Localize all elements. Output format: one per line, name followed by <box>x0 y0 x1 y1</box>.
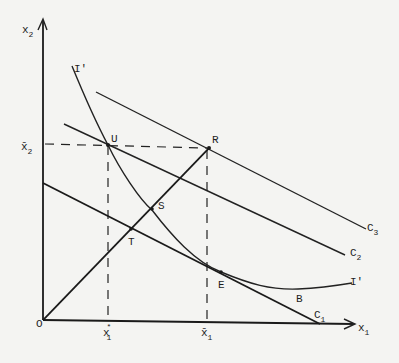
isocost-line-c3 <box>96 92 366 229</box>
isocost-c2-label: C2 <box>350 247 362 262</box>
point-e-marker <box>219 270 223 274</box>
point-t-marker <box>129 227 133 231</box>
isoquant-curve <box>72 66 352 289</box>
point-e-label: E <box>218 279 225 291</box>
expansion-ray <box>43 148 209 320</box>
origin-label: O <box>36 318 43 330</box>
isocost-line-c1 <box>43 183 320 324</box>
x-star-tick-label: x*1 <box>103 322 111 342</box>
point-u-label: U <box>111 133 118 145</box>
point-b-label: B <box>296 293 303 305</box>
x-axis <box>43 320 354 324</box>
point-s-marker <box>150 207 154 211</box>
point-s-label: S <box>158 200 165 212</box>
isocost-isoquant-diagram: x2 x1 O x̄2 x*1 x̄1 C1 C2 C3 I' I' U R S… <box>0 0 399 363</box>
y-axis-label: x2 <box>22 24 34 39</box>
point-u-marker <box>106 143 110 147</box>
point-r-marker <box>207 146 211 150</box>
y-bar-tick-label: x̄2 <box>21 141 33 156</box>
x-bar-tick-label: x̄1 <box>201 327 213 342</box>
isocost-line-c2 <box>64 124 345 255</box>
point-r-label: R <box>212 134 219 146</box>
point-t-label: T <box>128 236 135 248</box>
x-axis-label: x1 <box>358 322 370 337</box>
isoquant-right-label: I' <box>350 276 363 288</box>
isoquant-top-label: I' <box>74 63 87 75</box>
y-bar-dashed-guide <box>45 144 207 148</box>
isocost-c3-label: C3 <box>367 222 379 237</box>
